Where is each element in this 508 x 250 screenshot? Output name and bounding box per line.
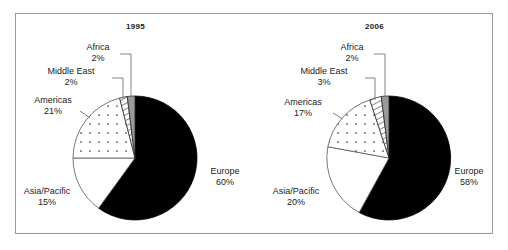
label-americas-name-1995: Americas bbox=[23, 95, 83, 106]
label-middleeast-name-2006: Middle East bbox=[286, 66, 362, 77]
chart-panel-2006: 2006 bbox=[255, 14, 494, 235]
label-africa-pct-2006: 2% bbox=[326, 53, 378, 64]
label-asiapacific-name-1995: Asia/Pacific bbox=[14, 186, 80, 197]
label-europe-2006: Europe 58% bbox=[446, 166, 492, 188]
leader-line-middleeast-1995 bbox=[112, 78, 123, 99]
label-europe-pct-2006: 58% bbox=[446, 177, 492, 188]
label-asiapacific-1995: Asia/Pacific 15% bbox=[14, 186, 80, 208]
label-middleeast-pct-2006: 3% bbox=[286, 77, 362, 88]
label-middleeast-2006: Middle East 3% bbox=[286, 66, 362, 88]
label-europe-name-2006: Europe bbox=[446, 166, 492, 177]
label-europe-name-1995: Europe bbox=[201, 166, 249, 177]
label-americas-1995: Americas 21% bbox=[23, 95, 83, 117]
label-middleeast-name-1995: Middle East bbox=[33, 66, 109, 77]
label-africa-2006: Africa 2% bbox=[326, 42, 378, 64]
pie-chart-figure: 1995 bbox=[0, 0, 508, 250]
chart-panel-1995: 1995 bbox=[16, 14, 255, 235]
label-europe-pct-1995: 60% bbox=[201, 177, 249, 188]
leader-line-americas-2006 bbox=[333, 113, 343, 119]
pie-2006: Africa 2% Middle East 3% Americas 17% As… bbox=[255, 14, 494, 235]
label-africa-pct-1995: 2% bbox=[72, 53, 124, 64]
label-asiapacific-pct-1995: 15% bbox=[14, 197, 80, 208]
label-asiapacific-pct-2006: 20% bbox=[263, 197, 329, 208]
label-middleeast-pct-1995: 2% bbox=[33, 77, 109, 88]
label-asiapacific-name-2006: Asia/Pacific bbox=[263, 186, 329, 197]
leader-line-middleeast-2006 bbox=[365, 78, 375, 100]
figure-frame: 1995 bbox=[15, 13, 493, 234]
label-americas-2006: Americas 17% bbox=[273, 97, 333, 119]
label-africa-name-1995: Africa bbox=[72, 42, 124, 53]
label-asiapacific-2006: Asia/Pacific 20% bbox=[263, 186, 329, 208]
pie-1995: Africa 2% Middle East 2% Americas 21% As… bbox=[16, 14, 255, 235]
label-africa-name-2006: Africa bbox=[326, 42, 378, 53]
label-africa-1995: Africa 2% bbox=[72, 42, 124, 64]
label-americas-name-2006: Americas bbox=[273, 97, 333, 108]
label-americas-pct-2006: 17% bbox=[273, 108, 333, 119]
label-europe-1995: Europe 60% bbox=[201, 166, 249, 188]
label-americas-pct-1995: 21% bbox=[23, 106, 83, 117]
label-middleeast-1995: Middle East 2% bbox=[33, 66, 109, 88]
